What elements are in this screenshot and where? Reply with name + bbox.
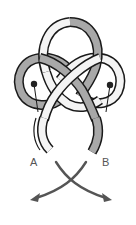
knot-illustration — [0, 0, 136, 225]
pin-head-icon — [31, 81, 37, 87]
pull-arrows — [36, 162, 106, 198]
rope-end-a — [42, 118, 50, 150]
arrowhead-right-icon — [102, 193, 112, 202]
rope-end-b — [92, 118, 98, 152]
knot-diagram: A B — [0, 0, 136, 225]
end-label-b: B — [102, 156, 109, 168]
pin-head-icon — [107, 82, 113, 88]
end-label-a: A — [30, 156, 37, 168]
arrowhead-left-icon — [30, 193, 40, 202]
